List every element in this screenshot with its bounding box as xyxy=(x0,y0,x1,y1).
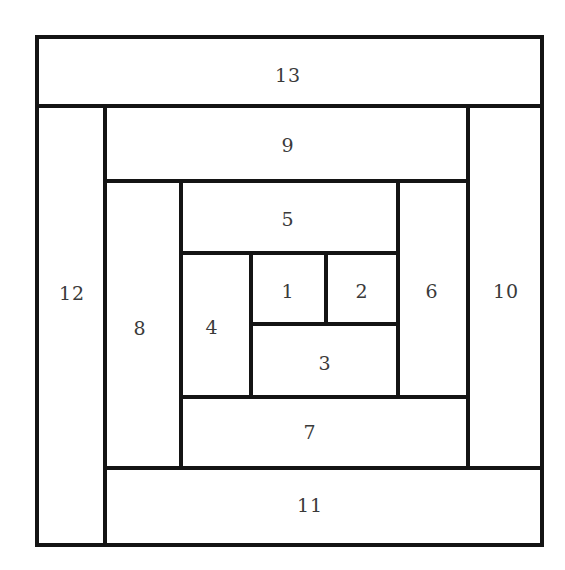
piece-label-9: 9 xyxy=(281,134,294,156)
piece-label-11: 11 xyxy=(297,494,323,516)
piece-label-3: 3 xyxy=(318,352,331,374)
divider-7-top xyxy=(181,395,468,399)
piece-label-7: 7 xyxy=(303,421,316,443)
divider-10-left xyxy=(466,106,470,470)
piece-label-4: 4 xyxy=(205,316,218,338)
divider-5-bottom xyxy=(181,251,398,255)
divider-12-right xyxy=(103,106,107,545)
piece-label-6: 6 xyxy=(425,280,438,302)
piece-label-13: 13 xyxy=(275,64,301,86)
piece-label-10: 10 xyxy=(493,280,519,302)
divider-11-top xyxy=(105,466,542,470)
divider-9-bottom xyxy=(107,179,468,183)
piece-label-12: 12 xyxy=(59,282,85,304)
divider-6-left xyxy=(396,181,400,399)
piece-label-1: 1 xyxy=(281,280,294,302)
log-cabin-diagram: 13 9 5 1 2 3 4 6 7 8 10 11 12 xyxy=(0,0,565,570)
piece-label-5: 5 xyxy=(281,208,294,230)
piece-label-8: 8 xyxy=(133,317,146,339)
divider-8-right xyxy=(179,181,183,468)
piece-label-2: 2 xyxy=(355,280,368,302)
divider-1-2 xyxy=(324,253,328,324)
